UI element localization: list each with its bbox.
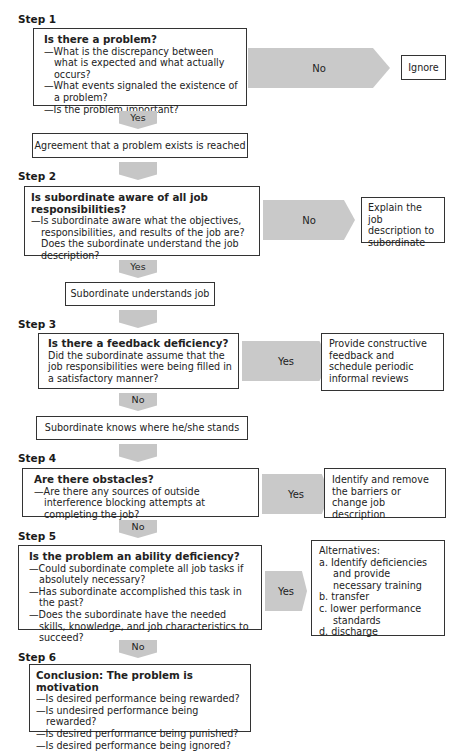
step-1-ignore-box: Ignore (401, 55, 446, 80)
alternative-item: c. lower performance standards (319, 603, 437, 626)
step-3-question-box: Is there a feedback deficiency? Did the … (38, 333, 239, 389)
arrow-label: Yes (288, 489, 304, 500)
step-1-question-title: Is there a problem? (44, 34, 240, 46)
step-2-result-box: Subordinate understands job (65, 282, 215, 306)
step-6-label: Step 6 (18, 651, 56, 663)
step-4-question-box: Are there obstacles? —Are there any sour… (22, 468, 259, 517)
step-2-question-box: Is subordinate aware of all job responsi… (24, 186, 260, 256)
step-2-question-line: —Is subordinate aware what the objective… (31, 215, 253, 261)
step-6-question-line: —Is undesired performance being rewarded… (36, 705, 244, 728)
arrow-label: Yes (130, 112, 145, 123)
step-3-result-box: Subordinate knows where he/she stands (36, 416, 248, 440)
step-4-question-title: Are there obstacles? (34, 474, 252, 486)
step-4-outcome-box: Identify and remove the barriers or chan… (324, 468, 446, 518)
arrow-label: No (132, 394, 145, 405)
step-3-question-line: Did the subordinate assume that the job … (48, 350, 232, 385)
arrow-label: Yes (278, 356, 294, 367)
step-2-outcome-box: Explain the job description to subordina… (361, 197, 445, 243)
step-1-question-line: —What is the discrepancy between what is… (44, 46, 240, 81)
step-5-question-line: —Could subordinate complete all job task… (29, 563, 255, 586)
step-5-label: Step 5 (18, 530, 56, 542)
step-1-yes-arrow: Yes (119, 111, 157, 129)
step-5-question-line: —Has subordinate accomplished this task … (29, 586, 255, 609)
step-5-question-line: —Does the subordinate have the needed sk… (29, 609, 255, 644)
arrow-label: Yes (278, 586, 294, 597)
step-3-question-title: Is there a feedback deficiency? (48, 338, 232, 350)
arrow-label: No (312, 63, 326, 74)
step-1-question-box: Is there a problem? —What is the discrep… (33, 28, 247, 106)
step-3-down-arrow (119, 444, 157, 462)
step-6-conclusion-title: Conclusion: The problem is motivation (36, 670, 244, 693)
step-2-label: Step 2 (18, 170, 56, 182)
step-4-question-line: —Are there any sources of outside interf… (34, 486, 252, 521)
step-5-question-title: Is the problem an ability deficiency? (29, 551, 255, 563)
step-2-no-arrow: No (263, 200, 355, 240)
arrow-label: No (132, 521, 145, 532)
step-3-outcome-box: Provide constructive feedback and schedu… (321, 333, 444, 391)
alternative-item: a. Identify deficiencies and provide nec… (319, 557, 437, 592)
step-1-result-box: Agreement that a problem exists is reach… (32, 133, 248, 158)
arrow-label: No (302, 215, 316, 226)
alternatives-heading: Alternatives: (319, 545, 437, 557)
step-1-label: Step 1 (18, 13, 56, 25)
step-1-down-arrow (119, 162, 157, 180)
alternative-item: b. transfer (319, 591, 437, 603)
step-6-question-line: —Is desired performance being ignored? (36, 740, 244, 751)
step-2-down-arrow (119, 310, 157, 328)
step-4-no-arrow: No (119, 520, 157, 538)
step-6-question-line: —Is desired performance being punished? (36, 728, 244, 740)
arrow-label: No (132, 641, 145, 652)
step-1-question-line: —What events signaled the existence of a… (44, 80, 240, 103)
step-5-alternatives-box: Alternatives: a. Identify deficiencies a… (311, 540, 445, 636)
step-3-no-arrow: No (119, 393, 157, 411)
step-5-yes-arrow-side: Yes (265, 571, 307, 611)
step-6-conclusion-box: Conclusion: The problem is motivation —I… (29, 664, 251, 732)
step-5-no-arrow: No (119, 640, 157, 658)
step-3-yes-arrow-side: Yes (242, 341, 330, 381)
step-1-no-arrow: No (248, 48, 390, 88)
alternative-item: d. discharge (319, 626, 437, 638)
step-3-label: Step 3 (18, 318, 56, 330)
step-4-label: Step 4 (18, 452, 56, 464)
arrow-label: Yes (130, 261, 145, 272)
step-2-yes-arrow: Yes (119, 260, 157, 278)
step-5-question-box: Is the problem an ability deficiency? —C… (18, 545, 262, 630)
step-6-question-line: —Is desired performance being rewarded? (36, 693, 244, 705)
step-4-yes-arrow-side: Yes (262, 474, 330, 514)
step-2-question-title: Is subordinate aware of all job responsi… (31, 192, 253, 215)
